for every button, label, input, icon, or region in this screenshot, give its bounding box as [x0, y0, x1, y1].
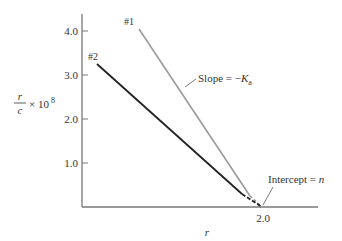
intercept-var: n: [319, 173, 325, 185]
y-label-exponent: 8: [51, 96, 55, 105]
intercept-prefix: Intercept =: [268, 173, 319, 185]
ytick-label-2: 2.0: [64, 113, 78, 125]
y-axis-label: r c × 10 8: [14, 90, 55, 116]
scatchard-plot: 4.0 3.0 2.0 1.0 2.0 r c × 10 8 r #1 #2 S…: [0, 0, 342, 241]
y-label-numerator: r: [18, 90, 23, 102]
series-2-extrapolation: [242, 194, 262, 207]
slope-sub: a: [248, 78, 252, 87]
ytick-label-1: 1.0: [64, 157, 78, 169]
intercept-leader: [263, 187, 273, 205]
ytick-label-4: 4.0: [64, 25, 78, 37]
slope-leader: [185, 79, 196, 87]
intercept-annotation: Intercept = n: [268, 173, 325, 185]
y-label-denominator: c: [18, 104, 23, 116]
series-1-line: [139, 29, 250, 196]
slope-annotation: Slope = −Ka: [198, 72, 252, 87]
series-1-label: #1: [124, 16, 134, 27]
y-label-multiplier: × 10: [29, 98, 49, 110]
xtick-label-2: 2.0: [256, 212, 270, 224]
x-axis-label: r: [205, 226, 210, 238]
slope-prefix: Slope = −: [198, 72, 241, 84]
ytick-label-3: 3.0: [64, 69, 78, 81]
series-2-label: #2: [88, 51, 98, 62]
